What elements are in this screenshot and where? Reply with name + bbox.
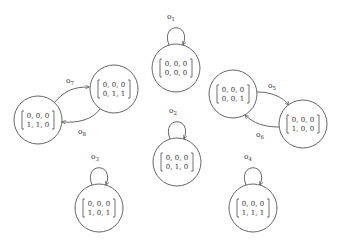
edge-o8: o8 [62,109,100,137]
matrix-row-1: 0, 0, 0 [88,200,110,208]
state-node-bottom-right: 0, 0, 0 1, 1, 1 [229,184,277,232]
arc [257,92,289,105]
state-node-left-upper: 0, 0, 0 0, 1, 1 [90,65,138,113]
matrix-row-1: 0, 0, 0 [292,116,314,124]
edge-label-o6: o6 [256,130,265,140]
matrix-row-1: 0, 0, 0 [222,86,244,94]
edge-label-o1: o1 [167,12,175,22]
loop-arc [168,122,185,139]
arc [54,87,89,103]
matrix-row-1: 0, 0, 0 [103,81,125,89]
self-loop-o3: o3 [90,152,107,185]
loop-arc [244,168,261,185]
state-node-top-center: 0, 0, 0 0, 0, 0 [152,44,200,92]
state-node-bottom-left: 0, 0, 0 1, 0, 1 [75,184,123,232]
matrix-row-2: 0, 0, 1 [222,95,244,103]
loop-arc [90,168,107,185]
matrix-row-1: 0, 0, 0 [166,154,188,162]
matrix-row-1: 0, 0, 0 [242,200,264,208]
self-loop-o1: o1 [167,12,185,45]
edge-label-o7: o7 [66,76,75,86]
matrix-row-2: 1, 0, 1 [88,209,110,217]
edge-label-o4: o4 [244,152,253,162]
edge-o5: o5 [257,81,289,105]
edge-label-o5: o5 [268,81,277,91]
matrix-row-1: 0, 0, 0 [165,60,187,68]
edge-label-o8: o8 [78,127,87,137]
matrix-row-2: 0, 1, 0 [166,163,188,171]
state-diagram: o1 o2 o3 o4 o7 o8 o5 o6 0, 0, 0 [0,0,340,244]
edge-label-o3: o3 [91,152,100,162]
matrix-row-1: 0, 0, 0 [27,112,49,120]
state-node-left-lower: 0, 0, 0 1, 1, 0 [14,96,62,144]
matrix-row-2: 0, 0, 0 [165,69,187,77]
self-loop-o2: o2 [168,106,185,139]
self-loop-o4: o4 [244,152,262,185]
state-node-right-upper: 0, 0, 0 0, 0, 1 [209,70,257,118]
arc [62,109,100,122]
edge-label-o2: o2 [169,106,177,116]
state-node-middle: 0, 0, 0 0, 1, 0 [153,138,201,186]
edge-o7: o7 [54,76,89,103]
matrix-row-2: 0, 1, 1 [103,90,125,98]
edge-o6: o6 [245,115,279,140]
matrix-row-2: 1, 0, 0 [292,125,314,133]
matrix-row-2: 1, 1, 0 [27,121,49,129]
state-node-right-lower: 0, 0, 0 1, 0, 0 [279,100,327,148]
arc [245,115,279,127]
loop-arc [167,28,184,45]
matrix-row-2: 1, 1, 1 [242,209,264,217]
